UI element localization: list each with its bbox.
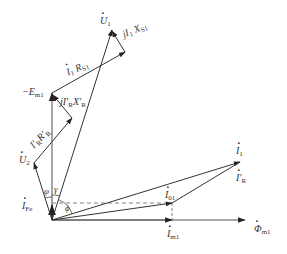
label-jir-xr: jI′RX′R — [60, 97, 86, 109]
phasor-i1 — [52, 162, 240, 220]
label-u1: U1 — [100, 16, 111, 28]
label-ir: I′R — [236, 173, 246, 185]
phasor-u2 — [34, 163, 52, 220]
label-phi-m1: Φm1 — [254, 224, 271, 236]
label-u2: U2 — [19, 155, 30, 167]
label-gamma: γ — [54, 185, 58, 194]
phasor-u1 — [52, 30, 112, 220]
label-phi: ϕ — [65, 204, 70, 213]
label-i-m1: Im1 — [167, 229, 179, 241]
angle-arc-phi2 — [45, 197, 52, 198]
label-i1: I1 — [236, 146, 243, 158]
label-phi2: φ — [44, 187, 49, 196]
label-i01: I01 — [165, 190, 175, 202]
phasor-i01 — [52, 203, 172, 220]
label-i-fe: IFe — [22, 201, 32, 213]
angle-arc-gamma — [52, 195, 60, 196]
label-neg-e-m1: −Em1 — [22, 87, 44, 99]
phasor-ir — [172, 162, 240, 203]
